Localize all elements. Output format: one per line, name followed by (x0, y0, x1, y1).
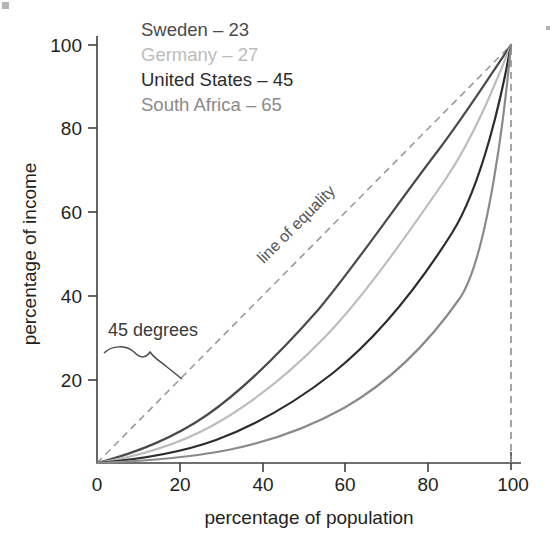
y-tick-label-40: 40 (61, 286, 82, 307)
x-tick-label-0: 0 (92, 474, 103, 495)
x-tick-label-20: 20 (169, 474, 190, 495)
y-axis-title: percentage of income (19, 163, 40, 346)
legend: Sweden – 23 Germany – 27 United States –… (141, 19, 293, 115)
scan-artifact (546, 26, 550, 30)
y-tick-label-100: 100 (50, 35, 82, 56)
chart-canvas: 100 80 60 40 20 0 20 40 60 80 100 percen… (0, 0, 554, 543)
lorenz-curve-figure: 100 80 60 40 20 0 20 40 60 80 100 percen… (0, 0, 554, 543)
scan-artifact (2, 2, 9, 9)
legend-item-sweden: Sweden – 23 (141, 19, 249, 40)
legend-item-germany: Germany – 27 (141, 44, 258, 65)
legend-item-south-africa: South Africa – 65 (141, 94, 282, 115)
y-tick-label-80: 80 (61, 118, 82, 139)
forty-five-degrees-label: 45 degrees (108, 320, 198, 340)
x-axis-title: percentage of population (204, 507, 413, 528)
x-tick-label-80: 80 (417, 474, 438, 495)
brace-icon (104, 347, 182, 379)
x-tick-label-40: 40 (252, 474, 273, 495)
y-tick-label-60: 60 (61, 202, 82, 223)
x-tick-label-60: 60 (334, 474, 355, 495)
x-tick-label-100: 100 (497, 474, 529, 495)
y-tick-label-20: 20 (61, 370, 82, 391)
legend-item-united-states: United States – 45 (141, 69, 293, 90)
line-of-equality-label: line of equality (254, 182, 338, 266)
